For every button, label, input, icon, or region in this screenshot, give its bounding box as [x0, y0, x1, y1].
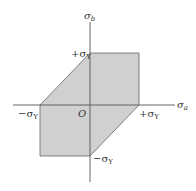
neg-horizontal-tick-label: −σY	[18, 108, 38, 121]
neg-vertical-tick-label: −σY	[93, 153, 113, 166]
origin-label: O	[78, 108, 86, 119]
horizontal-axis-label: σa	[177, 99, 188, 112]
vertical-axis-label: σb	[84, 10, 96, 23]
pos-vertical-tick-label: +σY	[71, 48, 91, 61]
yield-locus-diagram: σb σa O +σY −σY +σY −σY	[0, 0, 196, 191]
pos-horizontal-tick-label: +σY	[139, 108, 159, 121]
shaded-region	[40, 53, 139, 156]
